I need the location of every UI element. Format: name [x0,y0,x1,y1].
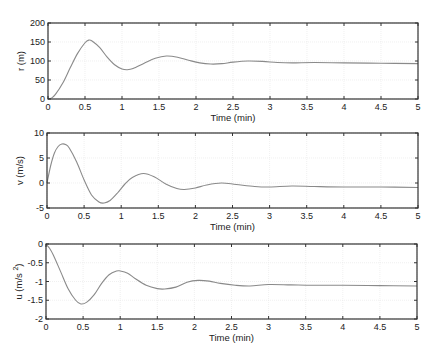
y-tick-label: 200 [30,18,45,28]
x-tick-label: 2.5 [226,211,239,221]
x-tick-label: 1 [118,322,123,332]
x-axis-label: Time (min) [209,332,254,343]
x-tick-label: 4 [341,102,346,112]
x-tick-label: 0 [44,211,49,221]
axes-frame [47,133,418,208]
x-tick-label: 4.5 [375,211,388,221]
x-tick-label: 3 [267,211,272,221]
y-tick-label: -1 [35,277,43,287]
x-tick-label: 0 [43,322,48,332]
acceleration-subplot: 00.511.522.533.544.55-2-1.5-1-0.50Time (… [12,239,420,343]
figure: 00.511.522.533.544.55050100150200Time (m… [0,0,437,358]
x-tick-label: 0.5 [78,211,91,221]
y-tick-label: -2 [35,314,43,324]
x-tick-label: 4.5 [374,322,387,332]
y-tick-label: -1.5 [27,295,43,305]
x-tick-label: 1 [119,211,124,221]
y-axis-label: u (m/s 2) [12,263,24,299]
y-tick-label: 50 [35,75,45,85]
x-axis-label: Time (min) [210,221,255,232]
y-tick-label: 5 [39,153,44,163]
y-tick-label: 150 [30,37,45,47]
x-tick-label: 2 [193,102,198,112]
x-tick-label: 1.5 [153,102,166,112]
position-subplot: 00.511.522.533.544.55050100150200Time (m… [15,18,421,123]
x-tick-label: 4 [340,322,345,332]
y-tick-label: 0 [39,178,44,188]
x-tick-label: 3.5 [301,102,314,112]
x-tick-label: 1.5 [151,322,164,332]
x-tick-label: 3 [266,322,271,332]
x-tick-label: 2.5 [225,322,238,332]
y-axis-label: v (m/s) [14,156,25,185]
x-tick-label: 0.5 [77,322,90,332]
y-tick-label: 0 [40,94,45,104]
x-tick-label: 0.5 [79,102,92,112]
axes-frame [46,244,417,319]
x-tick-label: 1 [119,102,124,112]
x-tick-label: 4.5 [375,102,388,112]
velocity-subplot: 00.511.522.533.544.55-50510Time (min)v (… [14,128,421,232]
x-axis-label: Time (min) [210,112,255,123]
x-tick-label: 2 [193,211,198,221]
grid-lines [47,133,418,208]
grid-lines [46,244,417,319]
x-tick-label: 5 [415,211,420,221]
x-tick-label: 2.5 [227,102,240,112]
subplot-figure: 00.511.522.533.544.55050100150200Time (m… [0,0,437,358]
x-tick-label: 4 [341,211,346,221]
x-tick-label: 2 [192,322,197,332]
x-tick-label: 1.5 [152,211,165,221]
y-tick-label: 100 [30,56,45,66]
y-tick-label: -5 [36,203,44,213]
y-tick-label: 0 [38,239,43,249]
y-axis-label: r (m) [15,51,26,71]
x-tick-label: 3.5 [300,211,313,221]
y-tick-label: 10 [34,128,44,138]
x-tick-label: 0 [45,102,50,112]
x-tick-label: 5 [415,102,420,112]
x-tick-label: 5 [414,322,419,332]
y-tick-label: -0.5 [27,258,43,268]
grid-lines [48,23,418,99]
x-tick-label: 3.5 [299,322,312,332]
x-tick-label: 3 [267,102,272,112]
